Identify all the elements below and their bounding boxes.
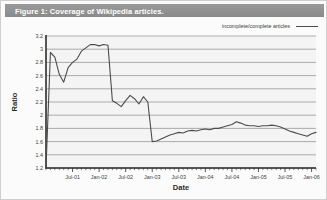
- chart-svg: 1.21.41.61.822.22.42.62.833.2 Jul-01Jan-…: [1, 1, 327, 200]
- y-tick-label: 1.8: [36, 125, 44, 131]
- x-tick-label: Jul-01: [65, 174, 80, 180]
- y-tick-label: 2: [40, 112, 43, 118]
- x-tick-label: Jan-06: [303, 174, 319, 180]
- x-tick-label: Jul-03: [171, 174, 186, 180]
- y-tick-label: 1.4: [36, 152, 44, 158]
- x-tick-label: Jan-04: [197, 174, 213, 180]
- y-tick-label: 1.2: [36, 165, 44, 171]
- x-tick-label: Jan-03: [144, 174, 160, 180]
- y-tick-label: 2.8: [36, 59, 44, 65]
- x-tick-label: Jul-05: [278, 174, 293, 180]
- y-tick-label: 1.6: [36, 139, 44, 145]
- y-axis-title: Ratio: [10, 92, 19, 111]
- x-tick-label: Jan-05: [250, 174, 266, 180]
- x-tick-label: Jan-02: [91, 174, 107, 180]
- x-tick-label: Jul-04: [225, 174, 240, 180]
- y-tick-label: 2.2: [36, 99, 44, 105]
- x-axis-title: Date: [173, 183, 189, 192]
- plot-area: 1.21.41.61.822.22.42.62.833.2 Jul-01Jan-…: [1, 1, 327, 200]
- y-tick-label: 3: [40, 46, 43, 52]
- x-axis-tick-labels: Jul-01Jan-02Jul-02Jan-03Jul-03Jan-04Jul-…: [65, 174, 320, 180]
- y-axis-tick-labels: 1.21.41.61.822.22.42.62.833.2: [36, 33, 44, 171]
- figure-container: Figure 1: Coverage of Wikipedia articles…: [0, 0, 327, 200]
- y-tick-label: 2.6: [36, 73, 44, 79]
- x-tick-label: Jul-02: [118, 174, 133, 180]
- y-tick-label: 2.4: [36, 86, 44, 92]
- y-tick-label: 3.2: [36, 33, 44, 39]
